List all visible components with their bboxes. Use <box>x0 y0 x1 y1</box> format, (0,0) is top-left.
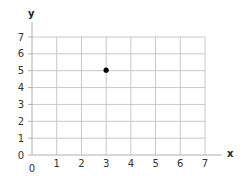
x-tick-label: 5 <box>152 158 158 169</box>
y-tick-label: 6 <box>18 48 24 59</box>
y-tick-label: 5 <box>18 65 24 76</box>
y-tick-label: 3 <box>18 99 24 110</box>
x-tick-label: 4 <box>128 158 134 169</box>
x-tick-label: 7 <box>202 158 208 169</box>
x-tick-label: 2 <box>78 158 84 169</box>
y-tick-label: 7 <box>18 32 24 43</box>
y-tick-label: 0 <box>18 150 24 161</box>
y-tick-label: 2 <box>18 116 24 127</box>
y-tick-label: 4 <box>18 82 24 93</box>
x-tick-label: 1 <box>54 158 60 169</box>
grid-lines <box>32 37 205 155</box>
y-tick-label: 1 <box>18 133 24 144</box>
x-axis-label: x <box>227 148 234 159</box>
x-tick-label: 6 <box>177 158 183 169</box>
data-point <box>104 68 109 73</box>
tick-labels: 0123456701234567 <box>18 32 208 175</box>
x-tick-label: 0 <box>29 163 35 174</box>
data-points <box>104 68 109 73</box>
coordinate-grid-chart: 0123456701234567 x y <box>0 0 250 176</box>
x-tick-label: 3 <box>103 158 109 169</box>
y-axis-label: y <box>28 8 35 19</box>
